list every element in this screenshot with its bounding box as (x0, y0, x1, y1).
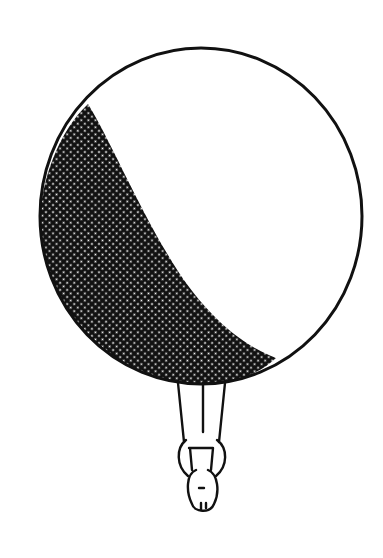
figure-waist (189, 448, 213, 470)
illustration-canvas (0, 0, 383, 558)
hanging-figure (178, 383, 225, 511)
figure-head (188, 470, 217, 511)
shadow-crescent (40, 104, 276, 385)
figure-right-side (219, 383, 225, 442)
figure-arms (179, 440, 225, 476)
figure-left-side (178, 383, 184, 442)
figure-hair (201, 503, 206, 510)
